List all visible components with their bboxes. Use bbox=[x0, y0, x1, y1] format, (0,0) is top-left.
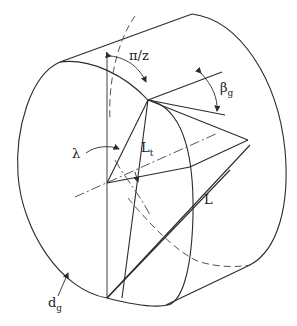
top-tangent-line bbox=[60, 14, 192, 62]
tangent-line-beta bbox=[148, 100, 225, 115]
back-face-outline bbox=[192, 14, 286, 265]
dg-arrow bbox=[58, 273, 68, 296]
label-dg: dg bbox=[48, 295, 62, 313]
helix-line-to-back bbox=[148, 100, 248, 140]
diagram-canvas: π/z βg λ Lt L dg bbox=[0, 0, 297, 326]
back-face-hidden-arc bbox=[110, 16, 135, 120]
label-beta-g: βg bbox=[220, 80, 234, 98]
gear-cylinder-diagram: π/z βg λ Lt L dg bbox=[0, 0, 297, 326]
label-l: L bbox=[204, 192, 213, 207]
lambda-arrow bbox=[86, 147, 119, 153]
front-face-upper-arc bbox=[60, 61, 148, 100]
cross-line-horizontal bbox=[107, 167, 190, 183]
bottom-tangent-line bbox=[166, 265, 250, 305]
cross-line-to-right bbox=[190, 140, 248, 167]
diagonal-line-back bbox=[107, 170, 230, 298]
label-lambda: λ bbox=[72, 146, 80, 161]
helix-dashdot bbox=[115, 160, 150, 215]
label-lt: Lt bbox=[141, 140, 154, 158]
label-pi-over-z: π/z bbox=[129, 48, 149, 63]
front-face-ellipse bbox=[18, 62, 193, 306]
